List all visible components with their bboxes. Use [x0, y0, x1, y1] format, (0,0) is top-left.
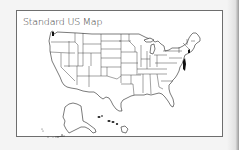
us-map: [17, 11, 224, 138]
aleutian-islands: [42, 129, 66, 139]
hawaii-inset: [98, 115, 129, 133]
contiguous-us-outline: [49, 31, 200, 111]
alaska-inset: [63, 103, 96, 133]
puget-sound-detail: [52, 32, 54, 36]
map-card: Standard US Map: [16, 10, 223, 137]
page-edge-shadow: [227, 0, 239, 150]
